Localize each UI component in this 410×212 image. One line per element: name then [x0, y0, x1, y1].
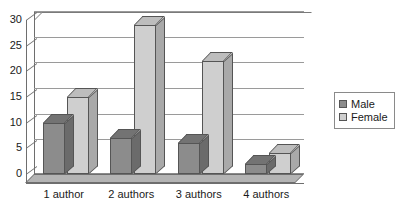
y-axis-tick-label: 15 — [0, 91, 22, 102]
x-axis-tick-label: 3 authors — [164, 188, 234, 200]
gridline — [34, 62, 304, 63]
bar-front-face — [43, 123, 65, 174]
legend-swatch-female-icon — [339, 113, 347, 121]
y-axis-tick-label: 30 — [0, 14, 22, 25]
x-axis-line — [26, 183, 304, 184]
y-axis-tick-label: 20 — [0, 65, 22, 76]
y-axis-tick-label: 25 — [0, 40, 22, 51]
bar-front-face — [245, 164, 267, 174]
bar-chart: 051015202530 1 author2 authors3 authors4… — [0, 0, 410, 212]
y-axis-tick-label: 0 — [0, 168, 22, 179]
bar-front-face — [178, 143, 200, 174]
x-axis-tick-label: 4 authors — [231, 188, 301, 200]
legend-label-female: Female — [351, 111, 388, 123]
bar-male — [245, 164, 267, 174]
bar-male — [110, 138, 132, 174]
bar-side-face — [89, 89, 98, 174]
legend-item-male[interactable]: Male — [339, 98, 388, 110]
bar-side-face — [156, 17, 165, 174]
x-axis-tick-label: 2 authors — [96, 188, 166, 200]
legend-label-male: Male — [351, 98, 375, 110]
y-axis-tick-label: 5 — [0, 142, 22, 153]
bar-male — [43, 123, 65, 174]
legend-swatch-male-icon — [339, 100, 347, 108]
bar-male — [178, 143, 200, 174]
plot-floor — [25, 174, 304, 183]
y-axis-tick-label: 10 — [0, 117, 22, 128]
bar-side-face — [65, 115, 74, 174]
legend-item-female[interactable]: Female — [339, 111, 388, 123]
gridline — [34, 37, 304, 38]
plot-top-wall — [34, 12, 312, 20]
chart-legend: Male Female — [334, 92, 395, 129]
x-axis-tick-label: 1 author — [29, 188, 99, 200]
gridline — [34, 11, 304, 12]
bar-front-face — [110, 138, 132, 174]
bar-side-face — [224, 53, 233, 174]
